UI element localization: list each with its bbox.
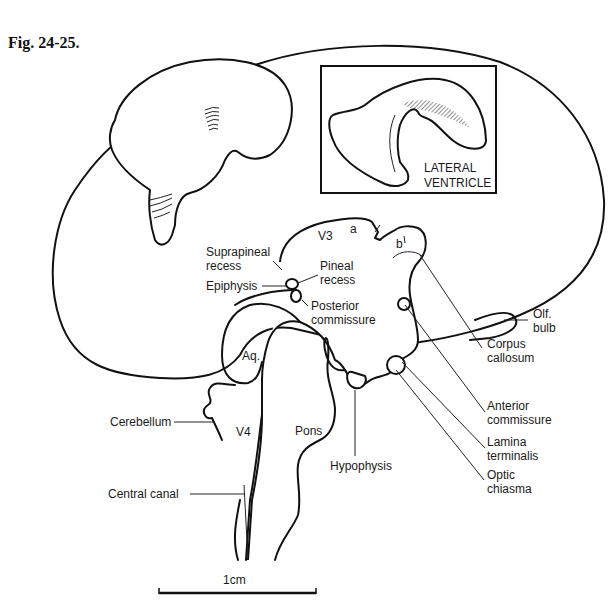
label-b: b bbox=[396, 237, 403, 251]
label-posterior-1: Posterior bbox=[311, 299, 359, 313]
label-suprapineal-2: recess bbox=[206, 259, 241, 273]
label-lamina-2: terminalis bbox=[487, 449, 538, 463]
pons-outline bbox=[275, 338, 345, 560]
labels: V3 a b Suprapineal recess Pineal recess … bbox=[108, 222, 556, 501]
label-hypophysis: Hypophysis bbox=[330, 459, 392, 473]
inset-lateral-ventricle: LATERAL VENTRICLE bbox=[321, 66, 496, 193]
brain-ventricle-diagram: LATERAL VENTRICLE V3 a b bbox=[0, 0, 608, 611]
inset-label-line1: LATERAL bbox=[424, 161, 477, 175]
label-pons: Pons bbox=[295, 424, 322, 438]
label-v3: V3 bbox=[318, 229, 333, 243]
cerebellum bbox=[204, 383, 235, 440]
label-optic-1: Optic bbox=[487, 468, 515, 482]
label-posterior-2: commissure bbox=[311, 313, 376, 327]
label-central-canal: Central canal bbox=[108, 487, 179, 501]
label-cerebellum: Cerebellum bbox=[110, 415, 171, 429]
label-aq: Aq. bbox=[242, 349, 260, 363]
label-a: a bbox=[350, 222, 357, 236]
label-anterior-1: Anterior bbox=[487, 399, 529, 413]
optic-chiasma bbox=[387, 356, 405, 374]
label-anterior-2: commissure bbox=[487, 413, 552, 427]
scale-bar-label: 1cm bbox=[223, 573, 246, 587]
scale-bar: 1cm bbox=[159, 573, 316, 594]
label-olf-1: Olf. bbox=[533, 307, 552, 321]
label-corpus-1: Corpus bbox=[487, 337, 526, 351]
label-pineal-2: recess bbox=[320, 273, 355, 287]
label-optic-2: chiasma bbox=[487, 482, 532, 496]
anterior-commissure bbox=[398, 298, 410, 310]
inset-label-line2: VENTRICLE bbox=[424, 176, 491, 190]
label-suprapineal-1: Suprapineal bbox=[206, 245, 270, 259]
label-olf-2: bulb bbox=[533, 321, 556, 335]
label-epiphysis: Epiphysis bbox=[206, 279, 257, 293]
spinal-canal-left bbox=[235, 500, 240, 560]
label-pineal-1: Pineal bbox=[320, 259, 353, 273]
olfactory-bulb bbox=[470, 313, 516, 340]
lateral-ventricle-cast-left bbox=[110, 59, 292, 244]
label-v4: V4 bbox=[236, 425, 251, 439]
label-lamina-1: Lamina bbox=[487, 435, 527, 449]
label-corpus-2: callosum bbox=[487, 351, 534, 365]
epiphysis bbox=[286, 279, 298, 289]
posterior-commissure bbox=[291, 290, 301, 302]
